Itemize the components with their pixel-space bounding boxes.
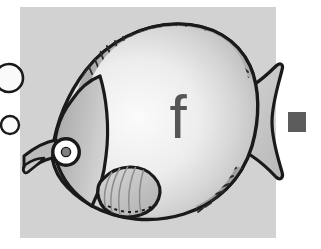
gray-accent-square: [288, 112, 306, 132]
letter-f: f: [169, 82, 187, 151]
pectoral-fin: [98, 166, 160, 217]
fish-scene-svg: f: [0, 0, 321, 249]
fish-eye: [51, 137, 81, 167]
illustration-canvas: f: [0, 0, 321, 249]
bubble-group: [0, 64, 23, 134]
bubble-small: [1, 116, 19, 134]
bubble-large: [0, 64, 23, 92]
